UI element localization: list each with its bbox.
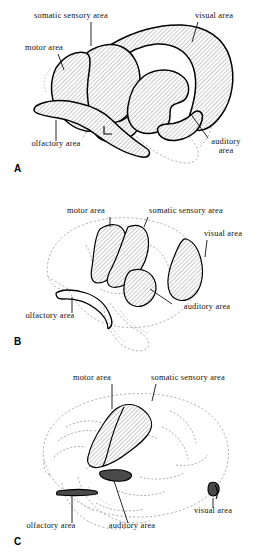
- panel-letter-c: C: [14, 536, 21, 547]
- label-auditory-c: auditory area: [109, 521, 156, 530]
- label-motor-a: motor area: [25, 43, 63, 52]
- panel-b-drawing: motor area somatic sensory area visual a…: [0, 185, 260, 365]
- label-somatic-sensory-b: somatic sensory area: [149, 206, 223, 215]
- figure-comparative-cortex: somatic sensory area visual area motor a…: [0, 0, 260, 553]
- leader-somatic-sensory-b: [144, 217, 148, 227]
- label-olfactory-c: olfactory area: [26, 521, 75, 530]
- label-auditory-b: auditory area: [184, 302, 231, 311]
- label-olfactory-b: olfactory area: [25, 311, 74, 320]
- label-visual-a: visual area: [195, 11, 233, 20]
- label-somatic-sensory-a: somatic sensory area: [34, 11, 108, 20]
- panel-a: somatic sensory area visual area motor a…: [0, 0, 260, 185]
- label-visual-b: visual area: [204, 229, 242, 238]
- leader-somatic-sensory-c: [152, 384, 156, 401]
- label-motor-c: motor area: [73, 373, 111, 382]
- panel-b: motor area somatic sensory area visual a…: [0, 185, 260, 365]
- panel-letter-b: B: [14, 336, 21, 347]
- label-auditory-a-line2: area: [219, 146, 234, 155]
- leader-visual-b: [205, 240, 207, 257]
- panel-a-drawing: somatic sensory area visual area motor a…: [0, 0, 260, 185]
- label-auditory-a-line1: auditory: [211, 137, 241, 146]
- panel-c: motor area somatic sensory area visual a…: [0, 365, 260, 553]
- label-motor-b: motor area: [67, 206, 105, 215]
- panel-letter-a: A: [14, 163, 21, 174]
- leader-auditory-c: [114, 481, 128, 523]
- label-somatic-sensory-c: somatic sensory area: [151, 373, 225, 382]
- panel-c-drawing: motor area somatic sensory area visual a…: [0, 365, 260, 553]
